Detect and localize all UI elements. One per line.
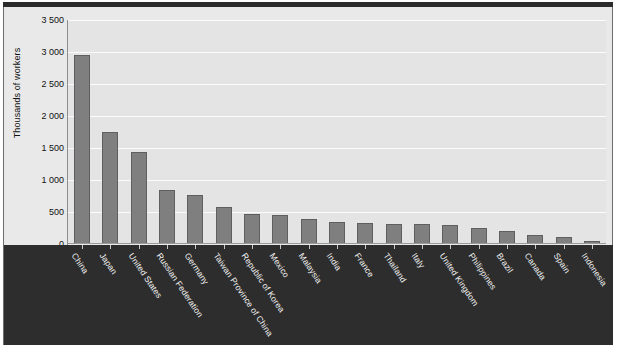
x-axis-category-label: Mexico bbox=[268, 251, 292, 279]
x-axis-tick bbox=[479, 245, 480, 249]
bar bbox=[131, 152, 147, 244]
x-axis-tick bbox=[507, 245, 508, 249]
x-axis-tick bbox=[309, 245, 310, 249]
y-axis-tick-label: 3 500 bbox=[16, 15, 64, 25]
y-axis-tick-label: 2 000 bbox=[16, 111, 64, 121]
gridline bbox=[68, 116, 606, 117]
x-axis-category-label: Malaysia bbox=[296, 251, 323, 285]
gridline bbox=[68, 212, 606, 213]
bar bbox=[187, 195, 203, 244]
x-axis-category-label: Spain bbox=[551, 251, 572, 275]
gridline bbox=[68, 84, 606, 85]
y-axis-tick-labels: 3 5003 0002 5002 0001 5001 0005000 bbox=[12, 20, 64, 244]
x-axis-tick bbox=[450, 245, 451, 249]
x-axis-baseline bbox=[68, 243, 606, 244]
bar bbox=[74, 55, 90, 244]
bar bbox=[301, 219, 317, 244]
plot-area bbox=[68, 20, 606, 244]
x-axis-tick bbox=[394, 245, 395, 249]
x-axis-tick bbox=[365, 245, 366, 249]
x-axis-category-label: Japan bbox=[98, 251, 120, 276]
bar bbox=[386, 224, 402, 244]
x-axis-tick bbox=[252, 245, 253, 249]
x-axis-tick bbox=[110, 245, 111, 249]
figure-top-border bbox=[3, 2, 613, 7]
x-axis-category-label: Canada bbox=[523, 251, 548, 282]
x-axis-category-label: Philippines bbox=[466, 251, 498, 292]
x-axis-tick bbox=[337, 245, 338, 249]
bar bbox=[102, 132, 118, 244]
gridline bbox=[68, 148, 606, 149]
gridline bbox=[68, 180, 606, 181]
bar bbox=[357, 223, 373, 244]
gridline bbox=[68, 20, 606, 21]
y-axis-tick-label: 1 000 bbox=[16, 175, 64, 185]
bar bbox=[414, 224, 430, 244]
x-axis-category-label: Italy bbox=[410, 251, 427, 270]
gridline bbox=[68, 52, 606, 53]
bar bbox=[216, 207, 232, 244]
x-axis-category-label: Brazil bbox=[495, 251, 516, 275]
x-axis-tick bbox=[280, 245, 281, 249]
x-axis-category-label: Indonesia bbox=[580, 251, 609, 288]
x-axis-category-label: India bbox=[325, 251, 344, 272]
bar bbox=[159, 190, 175, 244]
x-axis-tick bbox=[535, 245, 536, 249]
x-axis-tick bbox=[139, 245, 140, 249]
x-axis-tick bbox=[422, 245, 423, 249]
x-axis-category-label: Germany bbox=[183, 251, 211, 286]
bar bbox=[272, 215, 288, 244]
category-label-panel: ChinaJapanUnited StatesRussian Federatio… bbox=[4, 245, 613, 345]
x-axis-tick bbox=[195, 245, 196, 249]
y-axis-tick-label: 3 000 bbox=[16, 47, 64, 57]
x-axis-category-label: France bbox=[353, 251, 376, 279]
y-axis-tick-label: 500 bbox=[16, 207, 64, 217]
bar bbox=[442, 225, 458, 244]
y-axis-tick-label: 2 500 bbox=[16, 79, 64, 89]
x-axis-category-label: Thailand bbox=[381, 251, 408, 284]
bar bbox=[329, 222, 345, 244]
x-axis-category-label: China bbox=[70, 251, 91, 275]
x-axis-tick bbox=[167, 245, 168, 249]
x-axis-tick bbox=[82, 245, 83, 249]
x-axis-tick bbox=[224, 245, 225, 249]
y-axis-tick-label: 1 500 bbox=[16, 143, 64, 153]
x-axis-tick bbox=[564, 245, 565, 249]
chart-screenshot: Thousands of workers 3 5003 0002 5002 00… bbox=[0, 0, 626, 354]
x-axis-tick bbox=[592, 245, 593, 249]
bar bbox=[244, 214, 260, 244]
bar bbox=[471, 228, 487, 244]
